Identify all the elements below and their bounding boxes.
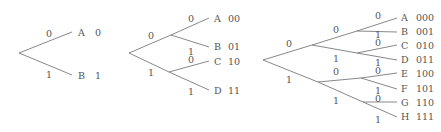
leaf-code: 0 <box>95 27 101 38</box>
leaf-symbol: H <box>401 111 409 122</box>
edge <box>312 45 357 53</box>
edge-label: 0 <box>188 54 194 65</box>
leaf-code: 00 <box>228 13 240 24</box>
edge-label: 0 <box>286 38 292 49</box>
edge-label: 1 <box>375 114 381 125</box>
edge-label: 0 <box>148 30 154 41</box>
leaf-symbol: A <box>213 13 221 24</box>
edge-label: 1 <box>148 67 154 78</box>
leaf-code: 000 <box>416 12 434 23</box>
edge-label: 0 <box>333 66 339 77</box>
leaf-code: 01 <box>228 41 240 52</box>
leaf-symbol: D <box>401 54 409 65</box>
edge-label: 0 <box>46 28 52 39</box>
leaf-symbol: F <box>401 83 408 94</box>
edge-label: 0 <box>375 10 381 21</box>
tree-3: 0 1 0 1 0 1 0 1 0 1 0 1 0 1 A 000 B 001 … <box>263 10 434 125</box>
leaf-code: 110 <box>416 97 434 108</box>
edge-label: 0 <box>375 93 381 104</box>
leaf-code: 001 <box>416 26 434 37</box>
leaf-symbol: A <box>77 27 85 38</box>
edge <box>318 82 363 102</box>
leaf-code: 11 <box>228 85 240 96</box>
leaf-symbol: C <box>401 40 408 51</box>
edge-label: 1 <box>188 86 194 97</box>
leaf-code: 10 <box>228 56 240 67</box>
leaf-symbol: E <box>401 68 408 79</box>
edge <box>318 78 361 82</box>
leaf-code: 011 <box>416 54 434 65</box>
edge-label: 1 <box>46 69 52 80</box>
binary-code-trees: 0 1 A 0 B 1 0 1 0 1 0 1 A 00 B 01 C 10 D… <box>0 0 441 132</box>
leaf-symbol: C <box>214 56 221 67</box>
edge-label: 0 <box>333 24 339 35</box>
leaf-symbol: B <box>78 70 85 81</box>
leaf-symbol: B <box>401 26 408 37</box>
leaf-code: 1 <box>95 70 101 81</box>
edge-label: 1 <box>286 74 292 85</box>
leaf-code: 010 <box>416 40 434 51</box>
edge-label: 1 <box>333 95 339 106</box>
edge-label: 0 <box>375 37 381 48</box>
leaf-code: 101 <box>416 83 434 94</box>
leaf-code: 100 <box>416 68 434 79</box>
tree-2: 0 1 0 1 0 1 A 00 B 01 C 10 D 11 <box>129 13 240 97</box>
leaf-symbol: G <box>401 97 409 108</box>
tree-1: 0 1 A 0 B 1 <box>19 27 101 81</box>
leaf-symbol: A <box>400 12 408 23</box>
edge-label: 1 <box>333 53 339 64</box>
leaf-symbol: B <box>214 41 221 52</box>
leaf-code: 111 <box>416 111 434 122</box>
leaf-symbol: D <box>214 85 222 96</box>
edge-label: 0 <box>188 13 194 24</box>
edge-label: 0 <box>375 65 381 76</box>
